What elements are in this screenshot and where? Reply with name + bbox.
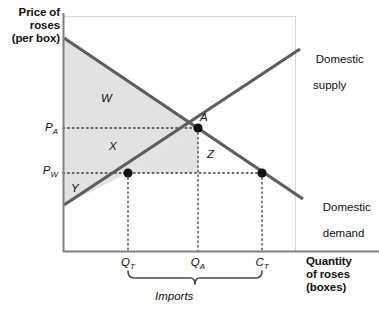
domestic-demand-label-line2: demand	[323, 227, 365, 239]
x-axis-title: Quantity of roses (boxes)	[306, 255, 378, 294]
quantity-tick-ct: CT	[242, 256, 282, 271]
price-tick-pa: PA	[18, 121, 58, 136]
domestic-demand-label: Domestic demand	[310, 188, 379, 252]
domestic-demand-label-line1: Domestic	[323, 201, 371, 213]
domestic-supply-label-line2: supply	[303, 79, 379, 92]
price-tick-pw: PW	[18, 164, 58, 179]
area-label-z: Z	[207, 148, 214, 160]
quantity-tick-qa-subscript: A	[200, 262, 205, 271]
area-label-y: Y	[71, 182, 79, 194]
quantity-tick-qa: QA	[178, 256, 218, 271]
area-label-x: X	[109, 140, 117, 152]
price-tick-pa-base: P	[45, 121, 53, 133]
quantity-tick-ct-base: C	[255, 256, 263, 268]
quantity-tick-qa-base: Q	[191, 256, 200, 268]
supply-demand-figure: Price of roses (per box) Quantity of ros…	[0, 0, 379, 315]
point-a	[193, 123, 202, 132]
quantity-tick-qt-subscript: T	[130, 262, 135, 271]
domestic-supply-label-line1: Domestic	[316, 53, 364, 65]
imports-bracket	[128, 271, 262, 284]
area-label-w: W	[101, 92, 112, 104]
quantity-tick-ct-subscript: T	[264, 262, 269, 271]
price-tick-pa-subscript: A	[53, 127, 58, 136]
point-ct	[257, 168, 266, 177]
imports-bracket-label: Imports	[155, 290, 193, 303]
y-axis-title: Price of roses (per box)	[2, 6, 60, 45]
domestic-supply-label: Domestic supply	[303, 40, 379, 117]
point-qt	[123, 168, 132, 177]
quantity-tick-qt-base: Q	[121, 256, 130, 268]
quantity-tick-qt: QT	[108, 256, 148, 271]
point-a-label: A	[200, 111, 208, 123]
price-tick-pw-subscript: W	[50, 170, 58, 179]
